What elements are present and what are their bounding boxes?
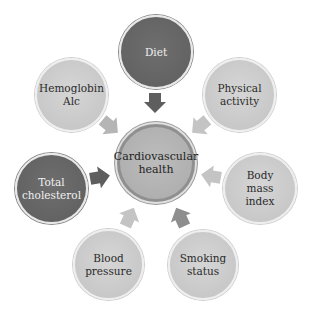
arrow-icon-blood-pressure: [115, 203, 143, 230]
node-body-mass-index-line2: index: [229, 195, 291, 208]
node-smoking-status: Smokingstatus: [168, 230, 238, 300]
node-hemoglobin-a1c: HemoglobinAlc: [35, 58, 108, 132]
node-hemoglobin-a1c-line1: Hemoglobin: [35, 82, 108, 95]
node-total-cholesterol: Totalcholesterol: [15, 153, 88, 224]
node-total-cholesterol-line2: cholesterol: [18, 189, 85, 202]
node-hemoglobin-a1c-line2: Alc: [35, 95, 108, 108]
node-physical-activity: Physicalactivity: [203, 58, 276, 132]
node-physical-activity-line2: activity: [213, 95, 265, 108]
center-label-line2: health: [110, 163, 202, 176]
node-total-cholesterol-line1: Total: [18, 176, 85, 189]
node-blood-pressure-line2: pressure: [81, 265, 136, 278]
node-blood-pressure: Bloodpressure: [73, 229, 144, 300]
node-body-mass-index-line1: Body mass: [229, 169, 291, 195]
node-smoking-status-line1: Smoking: [176, 252, 231, 265]
arrow-icon-diet: [144, 93, 166, 113]
node-smoking-status-line2: status: [176, 265, 231, 278]
node-body-mass-index: Body massindex: [223, 153, 297, 224]
center-node-cardiovascular-health: Cardiovascularhealth: [117, 124, 195, 202]
node-blood-pressure-line1: Blood: [81, 252, 136, 265]
node-physical-activity-line1: Physical: [213, 82, 265, 95]
arrow-icon-smoking-status: [166, 203, 194, 230]
node-diet: Diet: [119, 15, 193, 89]
node-diet-label: Diet: [141, 46, 171, 59]
center-label-line1: Cardiovascular: [110, 150, 202, 163]
